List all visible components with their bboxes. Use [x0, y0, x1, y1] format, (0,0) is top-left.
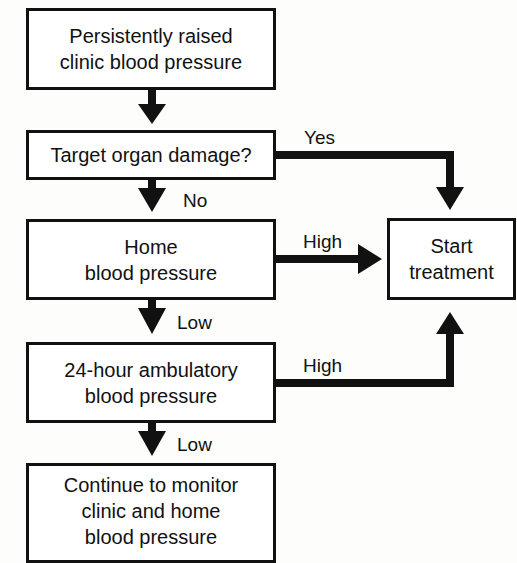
node-continue-monitor: Continue to monitor clinic and home bloo…: [26, 463, 276, 563]
node-text: Continue to monitor: [64, 472, 239, 498]
node-text: Start: [430, 233, 472, 259]
node-text: 24-hour ambulatory: [64, 357, 237, 383]
node-target-organ-damage: Target organ damage?: [26, 130, 276, 180]
node-text: blood pressure: [85, 260, 217, 286]
edge-label-yes: Yes: [304, 128, 335, 148]
node-text: clinic blood pressure: [60, 49, 242, 75]
node-text: clinic and home: [82, 498, 221, 524]
node-home-bp: Home blood pressure: [26, 219, 276, 300]
node-text: treatment: [409, 259, 493, 285]
node-text: blood pressure: [85, 383, 217, 409]
edge-label-high-abpm: High: [303, 356, 342, 376]
node-persistently-raised: Persistently raised clinic blood pressur…: [26, 8, 276, 90]
edge-label-high-home: High: [303, 232, 342, 252]
node-text: Target organ damage?: [50, 142, 251, 168]
node-text: Persistently raised: [69, 23, 232, 49]
node-ambulatory-bp: 24-hour ambulatory blood pressure: [26, 342, 276, 423]
edge-label-no: No: [183, 191, 207, 211]
node-text: Home: [124, 234, 177, 260]
node-start-treatment: Start treatment: [387, 218, 516, 300]
edge-label-low-abpm: Low: [177, 435, 212, 455]
node-text: blood pressure: [85, 524, 217, 550]
edge-label-low-home: Low: [177, 313, 212, 333]
